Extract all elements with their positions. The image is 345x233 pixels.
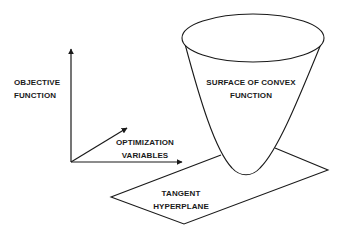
- variables-label-line2: VARIABLES: [110, 149, 180, 162]
- objective-label-line1: OBJECTIVE: [14, 76, 60, 89]
- surface-top-ellipse: [182, 14, 324, 62]
- convex-surface-label: SURFACE OF CONVEX FUNCTION: [198, 76, 304, 102]
- objective-label-line2: FUNCTION: [14, 89, 60, 102]
- tangent-hyperplane-label: TANGENT HYPERPLANE: [148, 187, 214, 213]
- surface-label-line1: SURFACE OF CONVEX: [198, 76, 304, 89]
- variables-label-line1: OPTIMIZATION: [110, 136, 180, 149]
- objective-function-label: OBJECTIVE FUNCTION: [14, 76, 60, 102]
- plane-label-line1: TANGENT: [148, 187, 214, 200]
- plane-label-line2: HYPERPLANE: [148, 200, 214, 213]
- surface-label-line2: FUNCTION: [198, 89, 304, 102]
- optimization-variables-label: OPTIMIZATION VARIABLES: [110, 136, 180, 162]
